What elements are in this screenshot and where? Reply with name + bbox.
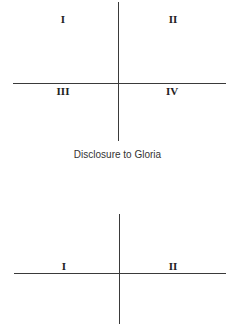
- vertical-axis: [119, 214, 120, 324]
- quadrant-label-iv: IV: [166, 86, 178, 97]
- figure-caption: Disclosure to Gloria: [0, 149, 235, 161]
- horizontal-axis: [13, 83, 226, 84]
- horizontal-axis: [14, 273, 226, 274]
- quadrant-label-i: I: [62, 261, 66, 272]
- vertical-axis: [118, 2, 119, 141]
- quadrant-diagram-2: I II: [0, 165, 235, 320]
- quadrant-label-ii: II: [169, 14, 178, 25]
- quadrant-diagram-1: I II III IV Disclosure to Gloria: [0, 0, 235, 165]
- quadrant-label-i: I: [61, 14, 65, 25]
- quadrant-label-iii: III: [57, 86, 70, 97]
- quadrant-label-ii: II: [169, 261, 178, 272]
